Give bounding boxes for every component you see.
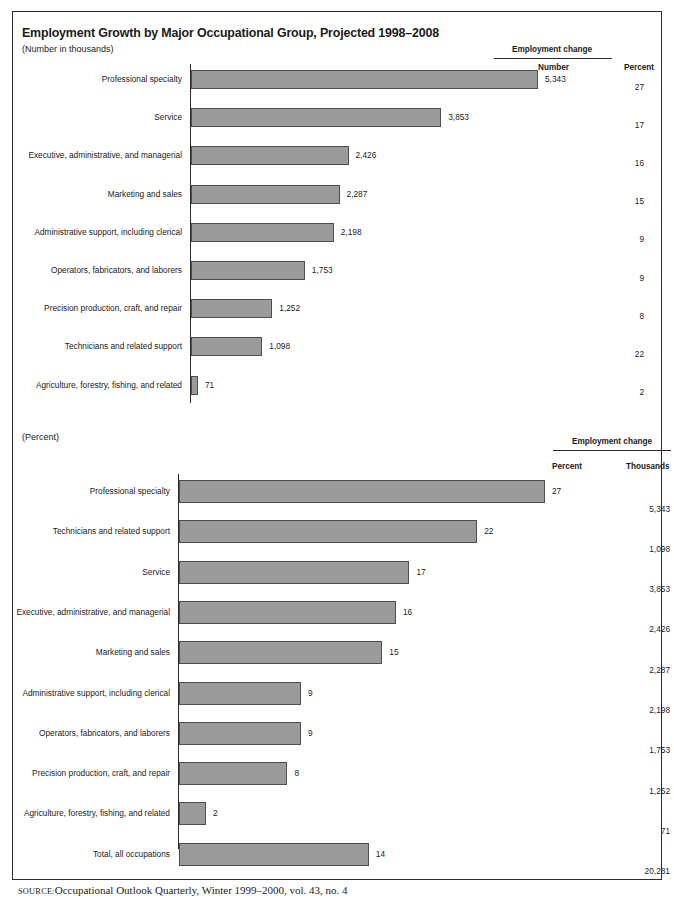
thousands-column-value: 71	[610, 826, 670, 836]
bar-value-label: 15	[389, 647, 398, 657]
thousands-column-value: 3,853	[610, 584, 670, 594]
thousands-column-value: 1,252	[610, 786, 670, 796]
category-label: Precision production, craft, and repair	[8, 768, 170, 778]
bar	[179, 762, 287, 785]
bar-value-label: 22	[484, 526, 493, 536]
bar	[179, 843, 369, 866]
category-label: Administrative support, including cleric…	[8, 688, 170, 698]
source-key: Source:	[18, 887, 55, 896]
category-label: Agriculture, forestry, fishing, and rela…	[8, 808, 170, 818]
thousands-column-value: 2,287	[610, 665, 670, 675]
thousands-column-value: 2,198	[610, 705, 670, 715]
bar-value-label: 9	[308, 728, 313, 738]
category-label: Total, all occupations	[8, 849, 170, 859]
bar	[179, 641, 382, 664]
category-label: Technicians and related support	[8, 526, 170, 536]
category-label: Service	[8, 567, 170, 577]
bar	[179, 520, 477, 543]
bar-value-label: 8	[294, 768, 299, 778]
source-line: Source:Occupational Outlook Quarterly, W…	[18, 884, 348, 896]
bar	[179, 601, 396, 624]
figure-page: Employment Growth by Major Occupational …	[0, 0, 674, 923]
bar-value-label: 14	[376, 849, 385, 859]
category-label: Operators, fabricators, and laborers	[8, 728, 170, 738]
thousands-column-value: 2,426	[610, 624, 670, 634]
thousands-column-value: 5,343	[610, 504, 670, 514]
thousands-column-value: 1,753	[610, 745, 670, 755]
category-label: Professional specialty	[8, 486, 170, 496]
bar-value-label: 17	[416, 567, 425, 577]
bar	[179, 682, 301, 705]
bar-value-label: 9	[308, 688, 313, 698]
thousands-column-value: 20,281	[610, 866, 670, 876]
category-label: Marketing and sales	[8, 647, 170, 657]
bar	[179, 722, 301, 745]
bar	[179, 802, 206, 825]
bar	[179, 480, 545, 503]
source-text: Occupational Outlook Quarterly, Winter 1…	[55, 884, 348, 896]
bar-value-label: 2	[213, 808, 218, 818]
thousands-column-value: 1,098	[610, 544, 670, 554]
bar-value-label: 27	[552, 486, 561, 496]
bar-value-label: 16	[403, 607, 412, 617]
chart2-plot: Professional specialty275,343Technicians…	[0, 0, 674, 923]
category-label: Executive, administrative, and manageria…	[8, 607, 170, 617]
bar	[179, 561, 409, 584]
